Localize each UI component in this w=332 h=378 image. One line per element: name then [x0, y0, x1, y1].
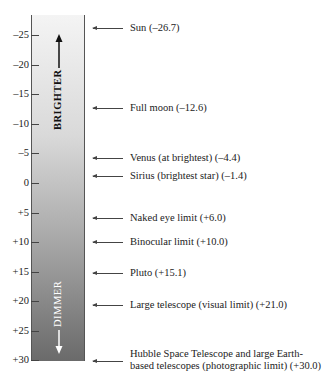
tick: [31, 301, 39, 302]
tick: [31, 35, 39, 36]
tick-label: +5: [18, 207, 29, 219]
tick: [31, 331, 39, 332]
pointer-arrow: [93, 176, 123, 177]
pointer-arrow: [93, 242, 123, 243]
tick-label: +10: [13, 236, 29, 248]
arrow-down-icon: [54, 320, 64, 354]
object-label-pluto: Pluto (+15.1): [130, 267, 186, 279]
object-label-binocular: Binocular limit (+10.0): [130, 236, 228, 248]
tick-label: –15: [13, 88, 29, 100]
tick-label: –10: [13, 118, 29, 130]
tick: [31, 94, 39, 95]
brighter-label: BRIGHTER: [52, 69, 63, 130]
tick-label: +20: [13, 295, 29, 307]
pointer-arrow: [93, 361, 123, 362]
tick-label: 0: [24, 177, 29, 189]
tick-label: –25: [13, 29, 29, 41]
object-label-large-telescope: Large telescope (visual limit) (+21.0): [130, 299, 287, 311]
tick-label: –5: [19, 147, 30, 159]
tick: [31, 183, 39, 184]
tick-label: –20: [13, 59, 29, 71]
tick-label: +15: [13, 266, 29, 278]
object-label-venus: Venus (at brightest) (–4.4): [130, 152, 240, 164]
object-label-hubble-line2: based telescopes (photographic limit) (+…: [130, 360, 321, 372]
tick: [31, 65, 39, 66]
tick: [31, 272, 39, 273]
object-label-hubble-line1: Hubble Space Telescope and large Earth-: [130, 348, 303, 360]
pointer-arrow: [93, 108, 123, 109]
tick: [31, 124, 39, 125]
pointer-arrow: [93, 158, 123, 159]
tick: [31, 360, 39, 361]
pointer-arrow: [93, 28, 123, 29]
tick-label: +25: [13, 325, 29, 337]
tick: [31, 213, 39, 214]
tick-label: +30: [13, 354, 29, 366]
object-label-sirius: Sirius (brightest star) (–1.4): [130, 170, 247, 182]
arrow-up-icon: [54, 34, 64, 68]
tick: [31, 242, 39, 243]
object-label-naked-eye: Naked eye limit (+6.0): [130, 212, 226, 224]
object-label-full-moon: Full moon (–12.6): [130, 102, 207, 114]
pointer-arrow: [93, 305, 123, 306]
tick: [31, 153, 39, 154]
pointer-arrow: [93, 218, 123, 219]
object-label-sun: Sun (–26.7): [130, 22, 180, 34]
pointer-arrow: [93, 273, 123, 274]
